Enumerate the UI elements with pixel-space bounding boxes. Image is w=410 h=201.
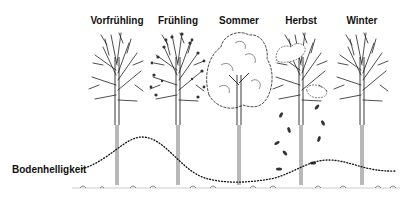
season-label-fruehling: Frühling — [158, 15, 198, 26]
season-label-sommer: Sommer — [219, 15, 259, 26]
tree-winter — [334, 33, 388, 185]
curve-label-bodenhelligkeit: Bodenhelligkeit — [12, 164, 86, 175]
season-label-herbst: Herbst — [285, 15, 317, 26]
tree-herbst — [273, 33, 327, 185]
season-label-winter: Winter — [346, 15, 377, 26]
season-tree-diagram: Vorfrühling Frühling Sommer Herbst Winte… — [0, 0, 410, 201]
season-label-vorfruehling: Vorfrühling — [90, 15, 143, 26]
ground-brightness-curve — [82, 137, 395, 182]
tree-fruehling — [150, 32, 206, 185]
grass-tufts — [80, 186, 396, 188]
tree-sommer — [207, 33, 272, 185]
